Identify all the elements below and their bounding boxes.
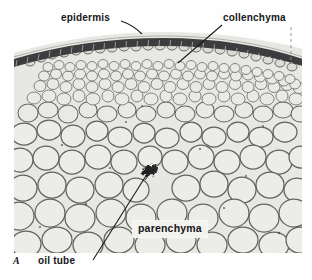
micrograph-plate [14,18,302,253]
grain-overlay [14,18,302,253]
panel-letter: A [13,255,20,266]
micrograph-svg [14,18,302,253]
label-epidermis: epidermis [61,12,110,23]
label-parenchyma: parenchyma [133,221,207,237]
label-collenchyma: collenchyma [223,12,286,23]
figure-panel: epidermis collenchyma parenchyma A oil t… [0,0,312,280]
label-oil-tube: oil tube [38,255,75,266]
